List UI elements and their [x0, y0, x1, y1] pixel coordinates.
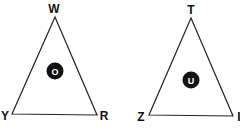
- vertex-label-top-left: W: [48, 2, 60, 16]
- vertex-label-top-right: T: [187, 3, 195, 17]
- center-label-left: O: [51, 67, 58, 77]
- vertex-label-bottom-left-right: Z: [137, 110, 144, 124]
- diagram: W Y R O T Z I U: [0, 0, 240, 132]
- vertex-label-bottom-left-left: Y: [1, 109, 9, 123]
- vertex-label-bottom-right-right: I: [237, 110, 240, 124]
- vertex-label-bottom-right-left: R: [100, 109, 109, 123]
- triangle-left: W Y R O: [1, 2, 109, 123]
- center-label-right: U: [188, 76, 195, 86]
- triangle-right: T Z I U: [137, 3, 240, 124]
- triangle-right-shape: [149, 18, 233, 116]
